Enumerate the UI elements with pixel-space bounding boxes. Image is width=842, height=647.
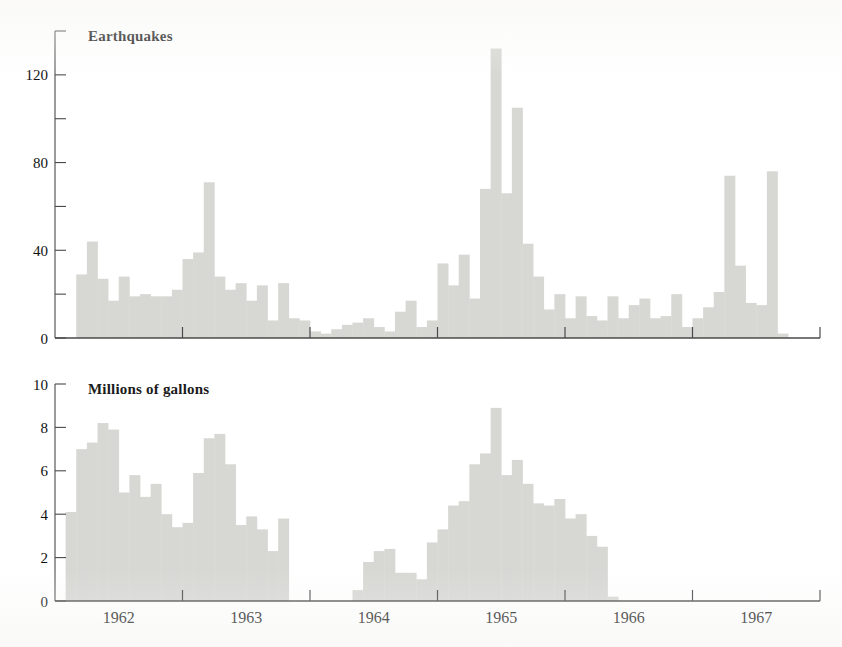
bar	[246, 301, 257, 338]
panel-title-millions-of-gallons: Millions of gallons	[88, 381, 209, 398]
bar	[629, 305, 640, 338]
bar	[374, 551, 385, 601]
bar	[501, 193, 512, 338]
panel-title-earthquakes: Earthquakes	[88, 28, 173, 45]
bar	[76, 449, 87, 601]
bar	[650, 318, 661, 338]
bar	[735, 266, 746, 338]
bar	[533, 503, 544, 601]
bar	[746, 303, 757, 338]
bar	[268, 551, 279, 601]
x-axis-year-label: 1962	[103, 609, 135, 626]
bar	[427, 542, 438, 601]
bar	[257, 285, 268, 338]
bar	[533, 277, 544, 338]
x-axis-year-label: 1967	[740, 609, 772, 626]
bar	[119, 493, 130, 602]
y-tick-label: 2	[41, 550, 49, 566]
bar	[767, 171, 778, 338]
bar	[395, 312, 406, 338]
bar	[363, 562, 374, 601]
bar	[225, 464, 236, 601]
bar	[512, 460, 523, 601]
earthquakes-plot: 04080120	[0, 0, 842, 360]
bar	[416, 579, 427, 601]
bar	[448, 285, 459, 338]
y-tick-label: 120	[26, 67, 49, 83]
bar	[204, 182, 215, 338]
x-axis-year-label: 1963	[230, 609, 262, 626]
bar	[151, 296, 162, 338]
bar	[236, 283, 247, 338]
x-axis-year-label: 1965	[485, 609, 517, 626]
bar	[172, 290, 183, 338]
bar	[544, 506, 555, 601]
bar	[87, 443, 98, 601]
bar	[597, 547, 608, 601]
bar	[66, 512, 77, 601]
bar	[161, 514, 172, 601]
bar	[693, 318, 704, 338]
bar	[756, 305, 767, 338]
bar	[236, 525, 247, 601]
bar	[384, 331, 395, 338]
bar	[671, 294, 682, 338]
bar	[278, 519, 289, 601]
bar	[87, 242, 98, 338]
bar	[108, 430, 119, 601]
bar	[406, 573, 417, 601]
bar	[459, 255, 470, 338]
bar	[108, 301, 119, 338]
bar	[310, 331, 321, 338]
bar	[639, 299, 650, 338]
bar	[76, 274, 87, 338]
x-axis-year-label: 1966	[613, 609, 645, 626]
y-tick-label: 0	[41, 331, 49, 347]
figure-earthquakes-and-waste-injection: 04080120 Earthquakes 0246810196219631964…	[0, 0, 842, 647]
bar	[661, 316, 672, 338]
bar	[406, 301, 417, 338]
bar	[161, 296, 172, 338]
bar	[714, 292, 725, 338]
bar	[214, 434, 225, 601]
bar	[119, 277, 130, 338]
y-tick-label: 6	[41, 463, 49, 479]
bar	[469, 299, 480, 338]
bar	[703, 307, 714, 338]
y-tick-label: 10	[33, 377, 48, 393]
bar	[129, 296, 140, 338]
bar	[618, 318, 629, 338]
bar	[151, 484, 162, 601]
bar	[129, 475, 140, 601]
bar	[682, 327, 693, 338]
bar	[172, 527, 183, 601]
bar	[469, 464, 480, 601]
bar	[193, 252, 204, 338]
bar	[576, 296, 587, 338]
bar	[342, 325, 353, 338]
bar	[501, 475, 512, 601]
bar	[363, 318, 374, 338]
bar	[98, 423, 109, 601]
bar	[289, 318, 300, 338]
bar	[523, 484, 534, 601]
bar	[480, 453, 491, 601]
y-tick-label: 4	[41, 507, 49, 523]
bar	[586, 536, 597, 601]
y-tick-label: 0	[41, 594, 49, 610]
bar	[214, 277, 225, 338]
bar	[491, 408, 502, 601]
bar	[576, 514, 587, 601]
bar	[384, 549, 395, 601]
panel-waste-injection: 0246810196219631964196519661967 Millions…	[0, 360, 842, 647]
bar	[448, 506, 459, 601]
waste-injection-plot: 0246810196219631964196519661967	[0, 360, 842, 647]
bar	[353, 590, 364, 601]
bar	[257, 529, 268, 601]
bar	[98, 279, 109, 338]
bar	[246, 516, 257, 601]
bar	[608, 296, 619, 338]
bar	[193, 473, 204, 601]
bar	[140, 497, 151, 601]
bar	[597, 320, 608, 338]
